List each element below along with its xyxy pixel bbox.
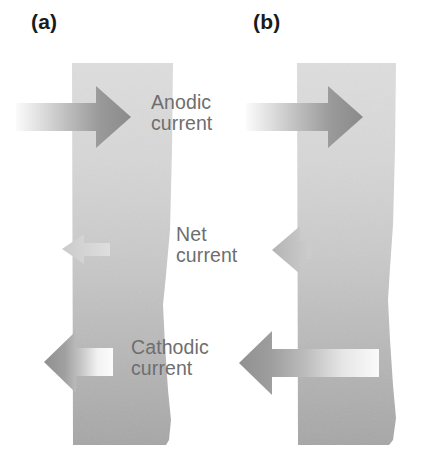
caption-cathodic-current: Cathodic current [131, 337, 209, 380]
panel-label-b: (b) [253, 11, 280, 32]
panel-b-group [239, 63, 396, 445]
panel-a-group [16, 63, 173, 445]
caption-net-current: Net current [176, 224, 237, 267]
caption-anodic-current: Anodic current [151, 92, 212, 135]
figure-container: (a) (b) Anodic current Net current Catho… [0, 0, 427, 473]
panel-label-a: (a) [31, 11, 57, 32]
